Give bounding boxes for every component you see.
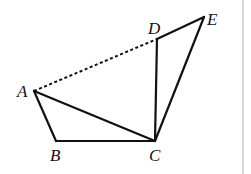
point-label-c: C (149, 146, 161, 165)
point-label-e: E (206, 10, 218, 29)
segment-CD (155, 39, 157, 141)
geometry-diagram: A B C D E (0, 0, 251, 174)
point-label-d: D (147, 19, 161, 38)
segment-AD-dashed (34, 39, 157, 91)
point-label-a: A (16, 82, 28, 101)
point-label-b: B (50, 146, 61, 165)
